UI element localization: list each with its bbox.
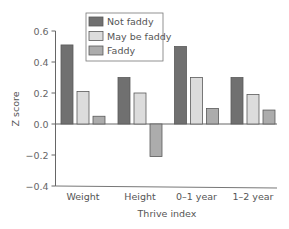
y-axis-title: Z score — [10, 91, 21, 126]
bar-group: Weight — [61, 45, 105, 202]
x-tick-label: 0–1 year — [176, 191, 217, 202]
y-tick-label: 0.2 — [33, 88, 48, 99]
bar-not-faddy — [231, 78, 243, 125]
y-axis: 0.60.40.20.0−0.2−0.4 — [25, 26, 55, 192]
x-axis-line — [56, 186, 278, 188]
bar-may-be-faddy — [247, 95, 259, 124]
bar-may-be-faddy — [134, 93, 146, 124]
legend-label: May be faddy — [107, 31, 172, 42]
bar-not-faddy — [61, 45, 73, 124]
x-axis — [56, 124, 278, 188]
bar-not-faddy — [118, 78, 130, 125]
bar-faddy — [150, 124, 162, 157]
x-tick-label: Height — [124, 191, 156, 202]
legend: Not faddyMay be faddyFaddy — [86, 13, 172, 61]
legend-swatch — [89, 46, 103, 55]
bar-faddy — [207, 109, 219, 125]
y-tick-label: −0.2 — [25, 150, 48, 161]
y-tick-label: 0.4 — [33, 57, 48, 68]
bar-faddy — [93, 116, 105, 124]
bar-may-be-faddy — [191, 78, 203, 125]
bars: WeightHeight0–1 year1–2 year — [61, 45, 275, 202]
x-tick-label: 1–2 year — [232, 191, 273, 202]
x-axis-title: Thrive index — [137, 208, 197, 219]
bar-group: 1–2 year — [231, 78, 275, 203]
y-tick-label: 0.0 — [33, 119, 48, 130]
legend-label: Faddy — [107, 45, 135, 56]
y-tick-label: 0.6 — [33, 26, 48, 37]
x-tick-label: Weight — [66, 191, 99, 202]
y-tick-label: −0.4 — [25, 181, 48, 192]
bar-group: Height — [118, 78, 162, 203]
legend-label: Not faddy — [107, 16, 154, 27]
bar-faddy — [263, 110, 275, 124]
bar-group: 0–1 year — [175, 47, 219, 203]
legend-swatch — [89, 17, 103, 26]
bar-may-be-faddy — [77, 91, 89, 124]
legend-swatch — [89, 32, 103, 41]
bar-chart: 0.60.40.20.0−0.2−0.4 WeightHeight0–1 yea… — [0, 0, 289, 229]
bar-not-faddy — [175, 47, 187, 125]
